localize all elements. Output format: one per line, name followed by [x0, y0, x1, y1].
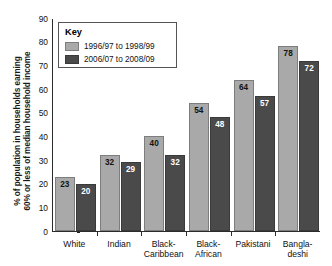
- y-axis-tick-label: 20: [32, 180, 48, 188]
- x-axis-category-line-2: deshi: [275, 249, 320, 259]
- x-axis-tick-mark: [97, 232, 98, 236]
- bar-value-label: 32: [101, 158, 119, 167]
- bar: 32: [100, 155, 120, 231]
- bar: 72: [299, 61, 319, 231]
- legend-title: Key: [65, 27, 171, 38]
- x-axis-category-label: Black-Caribbean: [141, 239, 186, 260]
- x-axis-tick-mark: [275, 232, 276, 236]
- bar-group: 7872: [278, 19, 319, 231]
- bar-value-label: 32: [166, 158, 184, 167]
- x-axis-category-line-1: Bangla-: [275, 239, 320, 249]
- legend-item: 2006/07 to 2008/09: [65, 53, 171, 65]
- bar-value-label: 78: [279, 49, 297, 58]
- bar-value-label: 54: [190, 106, 208, 115]
- y-axis-title-line-1: % of population in households earning: [12, 52, 22, 211]
- bar: 20: [76, 184, 96, 231]
- x-axis-category-line-1: Black-: [186, 239, 231, 249]
- bar-group: 5448: [189, 19, 230, 231]
- y-axis-tick-label: 50: [32, 109, 48, 117]
- legend-item-label: 1996/97 to 1998/99: [84, 42, 155, 51]
- x-axis-category-line-1: Pakistani: [231, 239, 276, 249]
- x-axis-category-line-1: Indian: [97, 239, 142, 249]
- bar-value-label: 29: [122, 165, 140, 174]
- y-axis-tick-label: 30: [32, 157, 48, 165]
- bar: 64: [234, 80, 254, 231]
- bar: 32: [165, 155, 185, 231]
- bar-group: 6457: [234, 19, 275, 231]
- y-axis-tick-label: 90: [32, 15, 48, 23]
- bar: 23: [55, 177, 75, 231]
- y-axis-tick-label: 10: [32, 204, 48, 212]
- y-axis-tick-label: 60: [32, 86, 48, 94]
- bar-value-label: 64: [235, 83, 253, 92]
- legend-swatch-light-icon: [65, 42, 79, 51]
- bar: 78: [278, 46, 298, 231]
- bar-chart: % of population in households earning 60…: [0, 0, 332, 266]
- x-axis-category-label: Pakistani: [231, 239, 276, 249]
- x-axis-category-line-1: Black-: [141, 239, 186, 249]
- y-axis-tick-labels: 0102030405060708090: [28, 0, 48, 266]
- y-axis-tick-label: 70: [32, 62, 48, 70]
- bar-value-label: 72: [300, 64, 318, 73]
- x-axis-category-label: Black-African: [186, 239, 231, 260]
- y-axis-tick-label: 80: [32, 38, 48, 46]
- x-axis-category-label: White: [52, 239, 97, 249]
- x-axis: WhiteIndianBlack-CaribbeanBlack-AfricanP…: [52, 232, 320, 266]
- bar-value-label: 23: [56, 180, 74, 189]
- x-axis-tick-mark: [231, 232, 232, 236]
- x-axis-category-line-2: Caribbean: [141, 249, 186, 259]
- legend-swatch-dark-icon: [65, 55, 79, 64]
- x-axis-tick-mark: [141, 232, 142, 236]
- y-axis-tick-label: 0: [32, 228, 48, 236]
- bar: 48: [210, 117, 230, 231]
- bar: 40: [144, 136, 164, 231]
- x-axis-tick-mark: [186, 232, 187, 236]
- bar: 57: [255, 96, 275, 231]
- legend-item: 1996/97 to 1998/99: [65, 40, 171, 52]
- legend: Key 1996/97 to 1998/99 2006/07 to 2008/0…: [58, 22, 177, 68]
- x-axis-category-label: Indian: [97, 239, 142, 249]
- x-axis-category-line-1: White: [52, 239, 97, 249]
- x-axis-category-label: Bangla-deshi: [275, 239, 320, 260]
- y-axis-tick-label: 40: [32, 133, 48, 141]
- x-axis-category-line-2: African: [186, 249, 231, 259]
- bar-value-label: 20: [77, 187, 95, 196]
- bar: 29: [121, 162, 141, 231]
- bar-value-label: 40: [145, 139, 163, 148]
- bar-value-label: 57: [256, 99, 274, 108]
- bar-value-label: 48: [211, 120, 229, 129]
- legend-item-label: 2006/07 to 2008/09: [84, 55, 155, 64]
- bar: 54: [189, 103, 209, 231]
